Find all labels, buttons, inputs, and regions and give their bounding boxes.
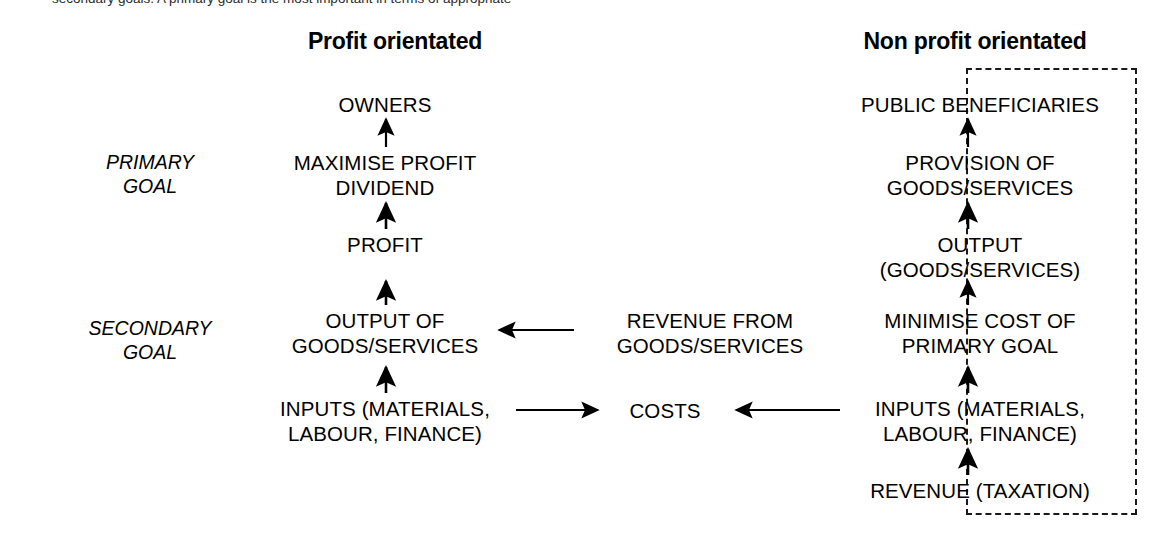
node-output-of-goods-services-line1: OUTPUT OF — [255, 308, 515, 333]
node-minimise-cost-line2: PRIMARY GOAL — [850, 333, 1110, 358]
node-inputs-nonprofit: INPUTS (MATERIALS, LABOUR, FINANCE) — [845, 396, 1115, 446]
node-revenue-taxation: REVENUE (TAXATION) — [845, 478, 1115, 503]
row-label-primary-goal-line2: GOAL — [35, 174, 265, 198]
heading-profit-orientated: Profit orientated — [265, 28, 525, 55]
row-label-secondary-goal: SECONDARY GOAL — [35, 316, 265, 364]
node-output-of-goods-services: OUTPUT OF GOODS/SERVICES — [255, 308, 515, 358]
node-output-goods-services-nonprofit-line2: (GOODS/SERVICES) — [850, 257, 1110, 282]
node-revenue-from-goods-services: REVENUE FROM GOODS/SERVICES — [580, 308, 840, 358]
row-label-secondary-goal-line1: SECONDARY — [35, 316, 265, 340]
node-owners: OWNERS — [265, 92, 505, 117]
node-inputs-profit-line1: INPUTS (MATERIALS, — [250, 396, 520, 421]
node-provision-of-goods-services-line2: GOODS/SERVICES — [850, 175, 1110, 200]
node-maximise-profit-dividend: MAXIMISE PROFIT DIVIDEND — [265, 150, 505, 200]
node-inputs-nonprofit-line1: INPUTS (MATERIALS, — [845, 396, 1115, 421]
node-provision-of-goods-services: PROVISION OF GOODS/SERVICES — [850, 150, 1110, 200]
node-inputs-profit: INPUTS (MATERIALS, LABOUR, FINANCE) — [250, 396, 520, 446]
row-label-primary-goal: PRIMARY GOAL — [35, 150, 265, 198]
node-output-of-goods-services-line2: GOODS/SERVICES — [255, 333, 515, 358]
heading-non-profit-orientated: Non profit orientated — [810, 28, 1140, 55]
node-revenue-from-goods-services-line2: GOODS/SERVICES — [580, 333, 840, 358]
diagram-canvas: secondary goals. A primary goal is the m… — [0, 0, 1163, 548]
node-output-goods-services-nonprofit: OUTPUT (GOODS/SERVICES) — [850, 232, 1110, 282]
node-maximise-profit-line1: MAXIMISE PROFIT — [265, 150, 505, 175]
node-minimise-cost-of-primary-goal: MINIMISE COST OF PRIMARY GOAL — [850, 308, 1110, 358]
node-minimise-cost-line1: MINIMISE COST OF — [850, 308, 1110, 333]
row-label-primary-goal-line1: PRIMARY — [35, 150, 265, 174]
node-revenue-from-goods-services-line1: REVENUE FROM — [580, 308, 840, 333]
row-label-secondary-goal-line2: GOAL — [35, 340, 265, 364]
non-profit-dashed-enclosure — [966, 68, 1137, 515]
node-profit: PROFIT — [265, 232, 505, 257]
node-inputs-nonprofit-line2: LABOUR, FINANCE) — [845, 421, 1115, 446]
node-inputs-profit-line2: LABOUR, FINANCE) — [250, 421, 520, 446]
node-maximise-profit-line2: DIVIDEND — [265, 175, 505, 200]
node-provision-of-goods-services-line1: PROVISION OF — [850, 150, 1110, 175]
node-public-beneficiaries: PUBLIC BENEFICIARIES — [830, 92, 1130, 117]
cut-off-body-text: secondary goals. A primary goal is the m… — [52, 0, 1132, 6]
node-output-goods-services-nonprofit-line1: OUTPUT — [850, 232, 1110, 257]
node-costs: COSTS — [605, 398, 725, 423]
